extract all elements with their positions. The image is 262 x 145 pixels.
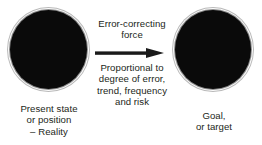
arrow-label-above: Error-correcting force — [84, 18, 180, 41]
arrow-label-below: Proportional to degree of error, trend, … — [82, 62, 182, 108]
feedback-loop-diagram: Error-correcting force Proportional to d… — [0, 0, 262, 145]
present-state-caption: Present state or position – Reality — [6, 103, 92, 137]
present-state-node — [10, 10, 87, 89]
goal-caption: Goal, or target — [174, 110, 254, 133]
goal-node — [175, 10, 251, 89]
error-correcting-force-arrow-icon — [94, 44, 166, 62]
